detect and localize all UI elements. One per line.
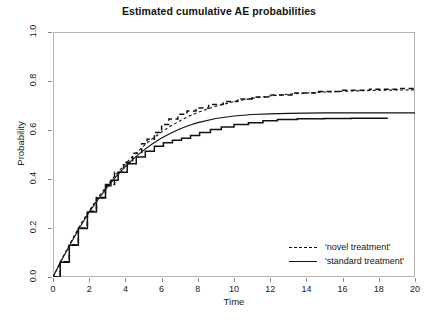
x-tick-label: 20 [403, 284, 427, 294]
x-tick-label: 2 [77, 284, 101, 294]
x-tick [125, 278, 126, 282]
y-tick-label: 0.6 [28, 118, 38, 140]
x-tick-label: 16 [331, 284, 355, 294]
legend-item: 'novel treatment' [289, 240, 404, 254]
x-tick [162, 278, 163, 282]
x-tick-label: 18 [367, 284, 391, 294]
chart-legend: 'novel treatment''standard treatment' [289, 240, 404, 268]
x-tick-label: 8 [186, 284, 210, 294]
y-tick-label: 0.8 [28, 69, 38, 91]
y-axis-label: Probability [15, 94, 26, 194]
legend-label: 'novel treatment' [325, 242, 390, 252]
x-tick [343, 278, 344, 282]
legend-line-icon [289, 242, 317, 252]
legend-label: 'standard treatment' [325, 256, 404, 266]
y-tick [48, 277, 52, 278]
x-tick-label: 0 [41, 284, 65, 294]
y-tick [48, 32, 52, 33]
y-tick-label: 0.4 [28, 167, 38, 189]
x-tick [379, 278, 380, 282]
x-tick [53, 278, 54, 282]
y-tick [48, 228, 52, 229]
x-tick [198, 278, 199, 282]
x-tick-label: 14 [294, 284, 318, 294]
y-tick [48, 81, 52, 82]
x-tick [415, 278, 416, 282]
y-tick-label: 0.0 [28, 265, 38, 287]
x-tick-label: 10 [222, 284, 246, 294]
chart-figure: Estimated cumulative AE probabilities Pr… [0, 0, 438, 320]
x-tick [234, 278, 235, 282]
x-tick-label: 6 [150, 284, 174, 294]
y-tick-label: 1.0 [28, 20, 38, 42]
x-tick [89, 278, 90, 282]
x-tick-label: 4 [113, 284, 137, 294]
legend-line-icon [289, 256, 317, 266]
y-tick [48, 179, 52, 180]
y-tick-label: 0.2 [28, 216, 38, 238]
y-tick [48, 130, 52, 131]
x-tick [306, 278, 307, 282]
x-axis-label: Time [53, 296, 415, 307]
legend-item: 'standard treatment' [289, 254, 404, 268]
x-tick-label: 12 [258, 284, 282, 294]
chart-title: Estimated cumulative AE probabilities [0, 5, 438, 17]
x-tick [270, 278, 271, 282]
